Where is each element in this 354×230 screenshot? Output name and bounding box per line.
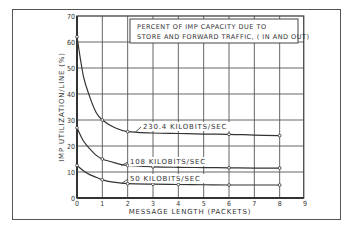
data-point-marker xyxy=(228,166,231,169)
x-tick: 1 xyxy=(100,200,104,208)
data-point-marker xyxy=(278,134,281,137)
x-axis-label: MESSAGE LENGTH (PACKETS) xyxy=(129,208,251,216)
series-annotations: 230.4 KILOBITS/SEC108 KILOBITS/SEC50 KIL… xyxy=(121,122,237,184)
y-tick: 50 xyxy=(67,65,75,73)
legend-box: PERCENT OF IMP CAPACITY DUE TO STORE AND… xyxy=(130,19,309,43)
x-tick: 3 xyxy=(151,200,155,208)
x-tick: 4 xyxy=(176,200,180,208)
data-point-marker xyxy=(126,164,129,167)
y-tick-labels: 010203040506070 xyxy=(67,13,75,203)
x-tick: 7 xyxy=(252,200,256,208)
data-point-marker xyxy=(177,183,180,186)
data-point-marker xyxy=(76,126,79,129)
x-tick: 6 xyxy=(227,200,231,208)
series-annotation-label: 230.4 KILOBITS/SEC xyxy=(143,123,227,131)
y-tick: 60 xyxy=(67,39,75,47)
x-tick: 5 xyxy=(202,200,206,208)
y-tick: 0 xyxy=(71,195,75,203)
annotation-leader xyxy=(135,127,141,132)
data-point-marker xyxy=(101,158,104,161)
data-point-marker xyxy=(101,178,104,181)
y-tick: 70 xyxy=(67,13,75,21)
x-tick: 9 xyxy=(303,200,307,208)
x-tick-labels: 0123456789 xyxy=(75,200,307,208)
data-point-marker xyxy=(278,167,281,170)
y-axis-label: IMP UTILIZATION/LINE (%) xyxy=(58,52,66,162)
data-point-marker xyxy=(76,164,79,167)
series-annotation-label: 108 KILOBITS/SEC xyxy=(130,158,206,166)
legend-line-2: STORE AND FORWARD TRAFFIC, ( IN AND OUT) xyxy=(137,33,309,41)
legend-line-1: PERCENT OF IMP CAPACITY DUE TO xyxy=(137,23,267,31)
data-point-marker xyxy=(278,184,281,187)
data-point-marker xyxy=(152,183,155,186)
y-tick: 10 xyxy=(67,169,75,177)
data-point-marker xyxy=(126,130,129,133)
data-point-marker xyxy=(76,35,79,38)
series-annotation-label: 50 KILOBITS/SEC xyxy=(130,175,201,183)
data-point-marker xyxy=(228,133,231,136)
line-chart: 0123456789 010203040506070 230.4 KILOBIT… xyxy=(0,0,354,230)
y-tick: 30 xyxy=(67,117,75,125)
y-tick: 40 xyxy=(67,91,75,99)
y-tick: 20 xyxy=(67,143,75,151)
data-point-marker xyxy=(126,182,129,185)
data-point-marker xyxy=(228,184,231,187)
data-point-marker xyxy=(101,119,104,122)
x-tick: 2 xyxy=(126,200,130,208)
x-tick: 0 xyxy=(75,200,79,208)
x-tick: 8 xyxy=(278,200,282,208)
